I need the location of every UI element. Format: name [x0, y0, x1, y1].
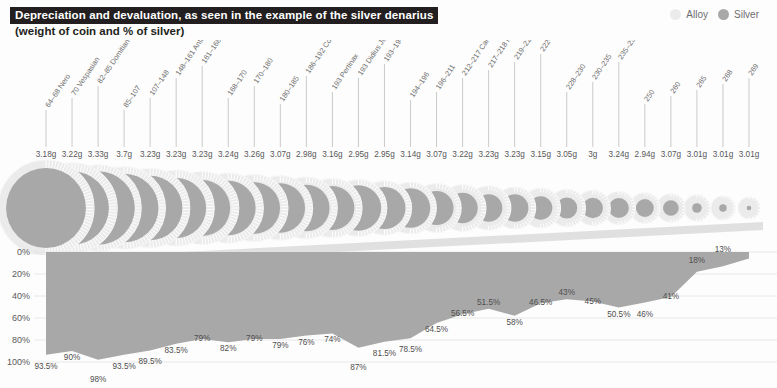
coin-era-label: 168–170	[225, 68, 249, 97]
legend-label-silver: Silver	[734, 9, 759, 20]
coin-weight-label: 3.05g	[556, 150, 577, 159]
coin-weight-label: 2.98g	[296, 150, 317, 159]
data-label-percent: 46%	[637, 310, 653, 319]
y-axis-tick: 20%	[12, 269, 30, 279]
coin-weight-label: 2.94g	[635, 150, 656, 159]
coin-weight-label: 3.18g	[36, 150, 57, 159]
coin-era-label: 170–180	[251, 56, 275, 85]
page-title: Depreciation and devaluation, as seen in…	[10, 7, 438, 24]
data-label-percent: 93.5%	[34, 362, 57, 371]
coin-weight-label: 3.07g	[270, 150, 291, 159]
data-label-percent: 41%	[663, 292, 679, 301]
y-axis-tick: 80%	[12, 335, 30, 345]
data-label-percent: 82%	[220, 344, 236, 353]
legend-swatch-silver-icon	[718, 9, 729, 20]
data-label-percent: 83.5%	[165, 346, 188, 355]
coin-weight-label: 3.22g	[452, 150, 473, 159]
coin-era-label: 250	[642, 88, 656, 103]
coin-labels: 64–68 Nero3.18g70 Vespasian3.22g82–85 Do…	[0, 40, 777, 255]
data-label-percent: 58%	[506, 318, 522, 327]
coin-weight-label: 3.24g	[218, 150, 239, 159]
coin-era-label: 228–230	[564, 62, 588, 91]
coin-era-label: 269	[746, 62, 760, 77]
coin-weight-label: 3.26g	[244, 150, 265, 159]
silver-area	[46, 252, 749, 360]
coin-weight-label: 2.95g	[374, 150, 395, 159]
coin-era-label: 64–68 Nero	[43, 72, 72, 109]
y-axis-tick: 60%	[12, 313, 30, 323]
legend-item-alloy: Alloy	[670, 9, 708, 20]
data-label-percent: 64.5%	[425, 325, 448, 334]
legend-swatch-alloy-icon	[670, 9, 681, 20]
data-label-percent: 89.5%	[139, 357, 162, 366]
y-axis-tick: 40%	[12, 291, 30, 301]
coin-weight-label: 3.15g	[530, 150, 551, 159]
coin-era-label: 235–238 Maximinus Thrax	[616, 40, 672, 61]
data-label-percent: 74%	[324, 335, 340, 344]
coin-weight-label: 3.01g	[687, 150, 708, 159]
coin-weight-label: 3.23g	[192, 150, 213, 159]
data-label-percent: 90%	[64, 353, 80, 362]
coin-era-label: 196–211	[434, 63, 457, 91]
area-chart-svg: 0%20%40%60%80%100%93.5%90%98%93.5%89.5%8…	[0, 246, 777, 388]
coin-weight-label: 3g	[588, 150, 598, 159]
data-label-percent: 18%	[689, 256, 705, 265]
data-label-percent: 79%	[246, 334, 262, 343]
data-label-percent: 43%	[559, 288, 575, 297]
coin-weight-label: 3.01g	[713, 150, 734, 159]
legend-item-silver: Silver	[718, 9, 759, 20]
data-label-percent: 45%	[585, 297, 601, 306]
coin-era-label: 230–235	[590, 52, 614, 81]
coin-weight-label: 3.07g	[661, 150, 682, 159]
data-label-percent: 46.5%	[529, 298, 552, 307]
coin-weight-label: 3.23g	[140, 150, 161, 159]
data-label-percent: 56.5%	[451, 309, 474, 318]
coin-band: 64–68 Nero3.18g70 Vespasian3.22g82–85 Do…	[0, 40, 777, 255]
page-subtitle: (weight of coin and % of silver)	[15, 25, 184, 37]
data-label-percent: 78.5%	[399, 345, 422, 354]
coin-weight-label: 3.24g	[609, 150, 630, 159]
coin-weight-label: 3.22g	[62, 150, 83, 159]
legend-label-alloy: Alloy	[686, 9, 708, 20]
data-label-percent: 87%	[350, 363, 366, 372]
coin-era-label: 70 Vespasian	[69, 55, 101, 97]
data-label-percent: 76%	[298, 338, 314, 347]
coin-era-label: 193–194 Septimius Severus	[382, 40, 441, 63]
coin-weight-label: 3.14g	[400, 150, 421, 159]
silver-percentage-area-chart: 0%20%40%60%80%100%93.5%90%98%93.5%89.5%8…	[0, 246, 777, 388]
data-label-percent: 50.5%	[607, 310, 630, 319]
data-label-percent: 81.5%	[373, 349, 396, 358]
coin-era-label: 194–196	[408, 70, 432, 99]
coin-weight-label: 3.23g	[478, 150, 499, 159]
coin-weight-label: 3.23g	[166, 150, 187, 159]
y-axis-tick: 100%	[7, 357, 30, 367]
coin-weight-label: 3.33g	[88, 150, 109, 159]
coin-weight-label: 3.16g	[322, 150, 343, 159]
coin-era-label: 222–228 Severus Alexander	[538, 40, 598, 53]
legend: Alloy Silver	[670, 9, 759, 20]
coin-weight-label: 2.95g	[348, 150, 369, 159]
infographic-root: Depreciation and devaluation, as seen in…	[0, 0, 777, 388]
coin-era-label: 260	[668, 80, 682, 95]
coin-era-label: 107–148	[147, 68, 171, 97]
data-label-percent: 51.5%	[477, 298, 500, 307]
coin-era-label: 82–85 Domitian	[95, 40, 131, 85]
coin-weight-label: 3.23g	[504, 150, 525, 159]
coin-era-label: 180–185	[278, 74, 302, 103]
coin-weight-label: 3.01g	[739, 150, 760, 159]
coin-weight-label: 3.7g	[116, 150, 132, 159]
coin-era-label: 265	[694, 74, 708, 89]
data-label-percent: 13%	[715, 246, 731, 254]
y-axis-tick: 0%	[17, 247, 30, 257]
coin-era-label: 268	[720, 68, 734, 83]
coin-era-label: 85–107	[121, 84, 142, 109]
data-label-percent: 98%	[90, 375, 106, 384]
data-label-percent: 93.5%	[113, 362, 136, 371]
data-label-percent: 79%	[194, 334, 210, 343]
coin-era-label: 161–168 Lucius Verus	[199, 40, 248, 65]
coin-weight-label: 3.07g	[426, 150, 447, 159]
data-label-percent: 79%	[272, 341, 288, 350]
